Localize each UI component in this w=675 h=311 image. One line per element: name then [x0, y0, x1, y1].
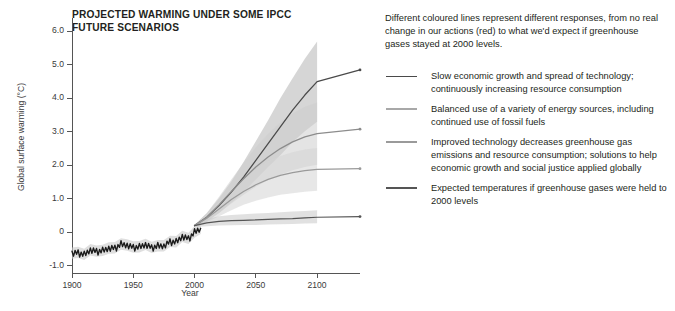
legend-item[interactable]: Expected temperatures if greenhouse gase…	[385, 182, 670, 208]
chart-title-line-1: PROJECTED WARMING UNDER SOME IPCC	[72, 9, 322, 22]
y-tick-mark	[67, 64, 72, 65]
y-tick-mark	[67, 165, 72, 166]
projection-line-a1b-mid	[195, 129, 360, 225]
observed-uncertainty-band	[72, 223, 201, 261]
legend-item[interactable]: Balanced use of a variety of energy sour…	[385, 103, 670, 129]
legend-list: Slow economic growth and spread of techn…	[385, 70, 670, 215]
y-tick-mark	[67, 232, 72, 233]
legend-item-label: Slow economic growth and spread of techn…	[431, 70, 670, 96]
uncertainty-band	[195, 210, 318, 227]
projection-line-b1-low	[195, 169, 360, 226]
projection-line-constant-2000	[195, 217, 360, 226]
chart-panel: PROJECTED WARMING UNDER SOME IPCC FUTURE…	[0, 0, 370, 311]
legend-item[interactable]: Improved technology decreases greenhouse…	[385, 136, 670, 176]
y-tick-label: 3.0	[38, 126, 64, 136]
x-tick-label: 2050	[236, 280, 276, 290]
x-tick-mark	[133, 273, 134, 278]
x-tick-mark	[255, 273, 256, 278]
legend-line-swatch	[386, 108, 417, 110]
y-tick-mark	[67, 131, 72, 132]
y-tick-label: -1.0	[38, 260, 64, 270]
projection-line-a2-high	[195, 70, 360, 226]
x-tick-label: 2000	[175, 280, 215, 290]
legend-line-swatch	[386, 141, 417, 143]
y-tick-label: 1.0	[38, 193, 64, 203]
y-tick-label: 6.0	[38, 25, 64, 35]
x-tick-mark	[72, 273, 73, 278]
y-axis-line	[72, 18, 73, 273]
y-tick-mark	[67, 31, 72, 32]
y-tick-label: 2.0	[38, 159, 64, 169]
y-tick-mark	[67, 265, 72, 266]
legend-item-label: Expected temperatures if greenhouse gase…	[431, 182, 670, 208]
uncertainty-band	[195, 148, 318, 226]
y-tick-mark	[67, 198, 72, 199]
y-tick-label: 5.0	[38, 59, 64, 69]
x-tick-label: 1900	[52, 280, 92, 290]
footer-fragment	[3, 304, 203, 310]
observed-line	[72, 228, 201, 257]
y-tick-mark	[67, 98, 72, 99]
x-tick-mark	[194, 273, 195, 278]
uncertainty-band	[195, 102, 318, 226]
y-axis-label: Global surface warming (°C)	[16, 67, 26, 207]
chart-title-line-2: FUTURE SCENARIOS	[72, 22, 322, 35]
projection-endpoint-constant-2000	[359, 215, 362, 218]
x-tick-label: 2100	[297, 280, 337, 290]
legend-line-swatch	[386, 76, 417, 78]
legend-item-label: Balanced use of a variety of energy sour…	[431, 103, 670, 129]
legend-item-label: Improved technology decreases greenhouse…	[431, 136, 670, 176]
projection-endpoint-a1b-mid	[359, 128, 362, 131]
figure-root: PROJECTED WARMING UNDER SOME IPCC FUTURE…	[0, 0, 675, 311]
y-tick-label: 4.0	[38, 92, 64, 102]
x-tick-mark	[317, 273, 318, 278]
legend-intro-text: Different coloured lines represent diffe…	[385, 12, 663, 52]
uncertainty-band	[195, 41, 318, 226]
legend-line-swatch	[386, 187, 417, 189]
legend-item[interactable]: Slow economic growth and spread of techn…	[385, 70, 670, 96]
chart-title: PROJECTED WARMING UNDER SOME IPCC FUTURE…	[72, 9, 322, 34]
y-tick-label: 0	[38, 226, 64, 236]
projection-endpoint-b1-low	[359, 167, 362, 170]
legend-panel: Different coloured lines represent diffe…	[385, 0, 670, 311]
x-tick-label: 1950	[113, 280, 153, 290]
projection-endpoint-a2-high	[359, 69, 362, 72]
